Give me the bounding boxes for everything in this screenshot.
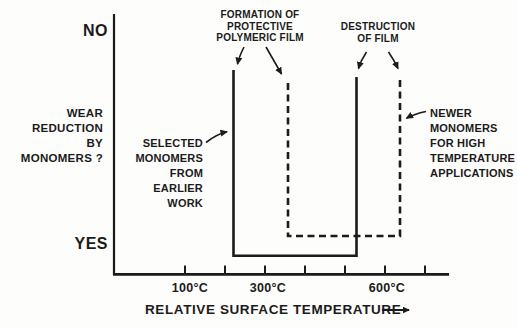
x-axis-title: RELATIVE SURFACE TEMPERATURE	[145, 302, 401, 317]
y-label-yes: YES	[58, 235, 108, 253]
y-label-no: NO	[58, 22, 108, 40]
destruction-annotation-line: OF FILM	[323, 33, 433, 45]
figure-canvas: NO YES WEAR REDUCTION BY MONOMERS ? FORM…	[0, 0, 517, 329]
formation-to-dashed-arrow	[266, 47, 282, 74]
y-axis-title-line: MONOMERS ?	[18, 151, 103, 166]
y-axis-title-line: REDUCTION	[18, 121, 103, 136]
destruction-to-dashed-arrow	[389, 52, 399, 69]
destruction-annotation-line: DESTRUCTION	[323, 21, 433, 33]
newer-monomers-annotation: NEWER MONOMERS FOR HIGH TEMPERATURE APPL…	[430, 106, 516, 181]
destruction-to-solid-arrow	[359, 52, 367, 69]
formation-annotation-line: POLYMERIC FILM	[203, 32, 317, 44]
selected-monomers-line: FROM	[120, 166, 203, 181]
formation-to-solid-arrow	[238, 47, 245, 64]
newer-monomers-line: TEMPERATURE	[430, 151, 516, 166]
newer-monomers-line: FOR HIGH	[430, 136, 516, 151]
selected-monomers-line: WORK	[120, 196, 203, 211]
solid-curve-selected-monomers	[234, 70, 357, 256]
newer-monomers-line: APPLICATIONS	[430, 166, 516, 181]
y-axis-title-line: BY	[18, 136, 103, 151]
formation-annotation-line: FORMATION OF	[203, 9, 317, 21]
x-tick-label-600c: 600°C	[360, 281, 414, 295]
formation-annotation: FORMATION OF PROTECTIVE POLYMERIC FILM	[203, 9, 317, 44]
destruction-annotation: DESTRUCTION OF FILM	[323, 21, 433, 44]
selected-monomers-line: EARLIER	[120, 181, 203, 196]
y-axis-title-line: WEAR	[18, 106, 103, 121]
selected-monomers-line: SELECTED	[120, 136, 203, 151]
x-tick-label-100c: 100°C	[163, 281, 217, 295]
x-tick-label-300c: 300°C	[241, 281, 295, 295]
newer-monomers-line: NEWER	[430, 106, 516, 121]
x-axis-ticks	[185, 266, 425, 274]
selected-monomers-annotation: SELECTED MONOMERS FROM EARLIER WORK	[120, 136, 203, 211]
selected-label-arrow	[206, 132, 227, 143]
newer-label-arrow	[407, 112, 427, 119]
formation-annotation-line: PROTECTIVE	[203, 21, 317, 33]
dashed-curve-newer-monomers	[288, 78, 400, 236]
y-axis-title: WEAR REDUCTION BY MONOMERS ?	[18, 106, 103, 166]
selected-monomers-line: MONOMERS	[120, 151, 203, 166]
newer-monomers-line: MONOMERS	[430, 121, 516, 136]
